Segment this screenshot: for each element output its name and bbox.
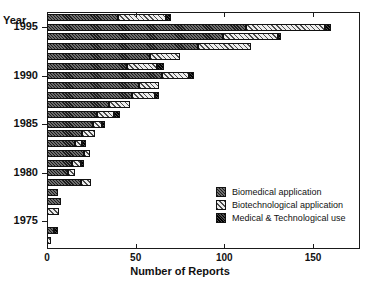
bar-segment-biomedical bbox=[47, 160, 72, 167]
bar-row bbox=[47, 111, 120, 118]
bar-row bbox=[47, 227, 58, 234]
bar-segment-biotechnological bbox=[82, 130, 94, 137]
bar-row bbox=[47, 33, 281, 40]
bar-segment-biomedical bbox=[47, 198, 61, 205]
x-axis-title: Number of Reports bbox=[47, 265, 313, 277]
bar-segment-biotechnological bbox=[132, 92, 155, 99]
legend-swatch-icon bbox=[216, 213, 226, 223]
bar-segment-biotechnological bbox=[109, 101, 130, 108]
bar-row bbox=[47, 198, 61, 205]
legend-swatch-icon bbox=[216, 200, 226, 210]
bar-row bbox=[47, 24, 331, 31]
x-tick-label: 50 bbox=[130, 252, 141, 263]
bar-row bbox=[47, 160, 84, 167]
bar-row bbox=[47, 179, 91, 186]
bar-row bbox=[47, 130, 95, 137]
legend-item: Biotechnological application bbox=[216, 199, 345, 210]
bar-segment-biomedical bbox=[47, 24, 246, 31]
bar-segment-biomedical bbox=[47, 111, 97, 118]
bar-segment-biotechnological bbox=[162, 72, 189, 79]
bar-segment-biomedical bbox=[47, 72, 162, 79]
bar-segment-medical_technological bbox=[325, 24, 330, 31]
y-tick bbox=[42, 173, 47, 174]
bar-row bbox=[47, 43, 251, 50]
bar-segment-biomedical bbox=[47, 92, 132, 99]
bar-row bbox=[47, 92, 159, 99]
x-tick-label: 150 bbox=[305, 252, 322, 263]
y-tick bbox=[42, 27, 47, 28]
bar-row bbox=[47, 53, 180, 60]
bar-row bbox=[47, 189, 58, 196]
bar-segment-biomedical bbox=[47, 53, 150, 60]
bar-segment-biomedical bbox=[47, 14, 118, 21]
bar-segment-biotechnological bbox=[68, 169, 75, 176]
chart-legend: Biomedical applicationBiotechnological a… bbox=[216, 186, 345, 225]
bar-segment-biomedical bbox=[47, 150, 84, 157]
bar-segment-medical_technological bbox=[278, 33, 282, 40]
bar-segment-biotechnological bbox=[97, 111, 115, 118]
x-tick-top bbox=[313, 12, 314, 17]
legend-item: Biomedical application bbox=[216, 186, 345, 197]
bar-segment-medical_technological bbox=[102, 121, 106, 128]
bar-segment-biotechnological bbox=[246, 24, 326, 31]
y-tick-label: 1990 bbox=[14, 69, 38, 81]
bar-segment-biomedical bbox=[47, 121, 93, 128]
y-tick-label: 1995 bbox=[14, 20, 38, 32]
bar-segment-medical_technological bbox=[166, 14, 171, 21]
bar-row bbox=[47, 169, 75, 176]
bar-segment-medical_technological bbox=[157, 63, 164, 70]
bar-segment-biomedical bbox=[47, 169, 68, 176]
bar-row bbox=[47, 72, 194, 79]
bar-row bbox=[47, 101, 130, 108]
bar-segment-biomedical bbox=[47, 179, 81, 186]
legend-label: Medical & Technological use bbox=[232, 213, 345, 223]
bar-segment-biotechnological bbox=[93, 121, 102, 128]
x-tick-top bbox=[224, 12, 225, 17]
x-tick-top bbox=[136, 12, 137, 17]
y-tick bbox=[42, 221, 47, 222]
bar-segment-medical_technological bbox=[81, 160, 85, 167]
bar-segment-biotechnological bbox=[198, 43, 251, 50]
bar-segment-medical_technological bbox=[189, 72, 194, 79]
bar-segment-biomedical bbox=[47, 227, 54, 234]
bar-row bbox=[47, 208, 59, 215]
bar-segment-biotechnological bbox=[127, 63, 157, 70]
bar-segment-medical_technological bbox=[82, 140, 86, 147]
bar-segment-biotechnological bbox=[81, 179, 92, 186]
bar-segment-medical_technological bbox=[155, 92, 159, 99]
bar-segment-biotechnological bbox=[150, 53, 180, 60]
legend-item: Medical & Technological use bbox=[216, 212, 345, 223]
x-tick bbox=[136, 244, 137, 249]
x-tick bbox=[313, 244, 314, 249]
bar-row bbox=[47, 63, 164, 70]
y-tick-label: 1975 bbox=[14, 214, 38, 226]
legend-label: Biomedical application bbox=[232, 187, 322, 197]
bar-segment-biomedical bbox=[47, 82, 139, 89]
bar-row bbox=[47, 82, 159, 89]
x-tick-label: 0 bbox=[44, 252, 50, 263]
y-tick bbox=[42, 76, 47, 77]
bar-segment-biomedical bbox=[47, 43, 198, 50]
bar-segment-biotechnological bbox=[75, 140, 82, 147]
bar-segment-medical_technological bbox=[114, 111, 119, 118]
bar-row bbox=[47, 140, 86, 147]
bar-segment-biomedical bbox=[47, 130, 82, 137]
x-tick bbox=[224, 244, 225, 249]
x-tick-label: 100 bbox=[216, 252, 233, 263]
bar-segment-medical_technological bbox=[54, 227, 58, 234]
bar-segment-biotechnological bbox=[139, 82, 159, 89]
y-tick-label: 1985 bbox=[14, 117, 38, 129]
bar-segment-biotechnological bbox=[47, 208, 59, 215]
legend-label: Biotechnological application bbox=[232, 200, 343, 210]
bar-segment-biomedical bbox=[47, 33, 223, 40]
bar-segment-biotechnological bbox=[84, 150, 89, 157]
bar-segment-biomedical bbox=[47, 101, 109, 108]
bar-row bbox=[47, 121, 105, 128]
x-tick bbox=[47, 244, 48, 249]
plot-right-spine bbox=[359, 12, 360, 249]
y-tick bbox=[42, 124, 47, 125]
bar-segment-biotechnological bbox=[118, 14, 166, 21]
bar-segment-biotechnological bbox=[72, 160, 81, 167]
bar-segment-biotechnological bbox=[223, 33, 278, 40]
bar-segment-biomedical bbox=[47, 189, 58, 196]
